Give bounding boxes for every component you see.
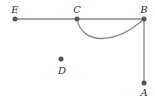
label-a: A	[139, 87, 147, 98]
edges	[15, 19, 144, 83]
node-c	[75, 17, 80, 22]
node-b	[142, 17, 147, 22]
node-a	[142, 81, 147, 86]
node-d	[59, 57, 64, 62]
node-e	[13, 17, 18, 22]
label-e: E	[10, 4, 19, 15]
graph-diagram: E C B D A	[0, 0, 155, 99]
label-c: C	[73, 4, 81, 15]
edge-c-b-curved	[77, 19, 144, 39]
label-d: D	[57, 65, 66, 76]
label-b: B	[139, 4, 147, 15]
